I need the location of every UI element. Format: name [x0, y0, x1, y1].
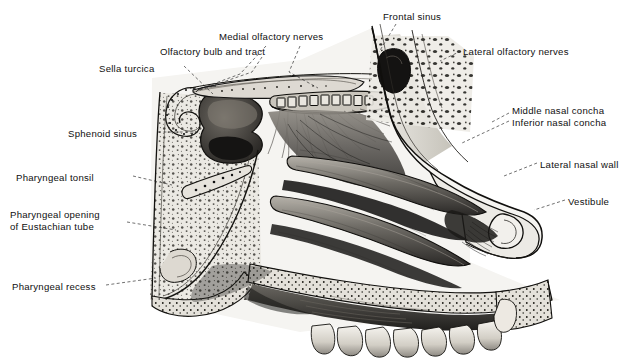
label-middle-nasal-concha: Middle nasal concha	[512, 105, 604, 117]
label-pharyngeal-opening-eustachian-tube: Pharyngeal opening of Eustachian tube	[10, 209, 100, 234]
label-lateral-nasal-wall: Lateral nasal wall	[540, 159, 619, 171]
label-pharyngeal-tonsil: Pharyngeal tonsil	[16, 172, 94, 184]
label-vestibule: Vestibule	[568, 196, 609, 208]
label-lateral-olfactory-nerves: Lateral olfactory nerves	[463, 46, 569, 58]
frontal-sinus-cavity	[378, 49, 411, 93]
label-inferior-nasal-concha: Inferior nasal concha	[512, 117, 606, 129]
anatomy-figure-plate: Frontal sinus Medial olfactory nerves La…	[0, 0, 639, 360]
label-pharyngeal-recess: Pharyngeal recess	[12, 281, 96, 293]
label-frontal-sinus: Frontal sinus	[383, 11, 441, 23]
label-olfactory-bulb-and-tract: Olfactory bulb and tract	[160, 46, 265, 58]
label-sella-turcica: Sella turcica	[99, 63, 155, 75]
label-sphenoid-sinus: Sphenoid sinus	[68, 128, 137, 140]
label-medial-olfactory-nerves: Medial olfactory nerves	[219, 31, 323, 43]
